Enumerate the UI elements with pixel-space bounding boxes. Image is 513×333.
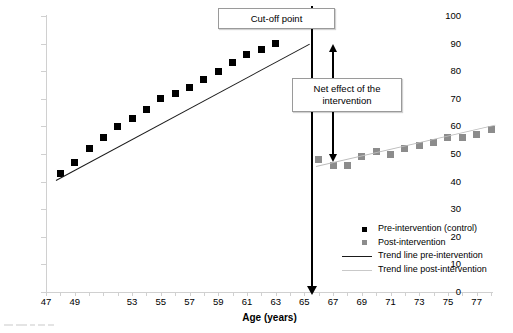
y-tick — [41, 126, 46, 127]
x-tick-label: 59 — [205, 297, 231, 307]
trend-line — [316, 125, 496, 167]
data-point — [114, 123, 121, 130]
x-tick — [233, 292, 234, 296]
y-tick-label: 0 — [421, 287, 461, 296]
data-point — [215, 68, 222, 75]
y-tick-label: 70 — [421, 94, 461, 103]
x-tick-label: 67 — [320, 297, 346, 307]
y-tick-label: 90 — [421, 39, 461, 48]
x-tick — [89, 292, 90, 296]
y-tick — [41, 154, 46, 155]
y-tick-label: 60 — [421, 121, 461, 130]
x-tick — [103, 292, 104, 296]
x-tick — [347, 292, 348, 296]
x-tick — [319, 292, 320, 296]
legend-square-icon — [340, 222, 374, 236]
data-point — [186, 84, 193, 91]
cutoff-vertical-line — [311, 6, 313, 287]
x-tick-label: 69 — [349, 297, 375, 307]
x-tick — [204, 292, 205, 296]
data-point — [459, 134, 466, 141]
legend-item: Trend line pre-intervention — [340, 249, 512, 263]
data-point — [272, 40, 279, 47]
x-tick — [261, 292, 262, 296]
data-point — [315, 156, 322, 163]
net-effect-arrow-head-up-icon — [329, 44, 337, 52]
y-tick — [41, 71, 46, 72]
y-tick-label: 40 — [421, 177, 461, 186]
cutoff-arrow-head-icon — [307, 286, 317, 295]
x-tick-label: 65 — [291, 297, 317, 307]
cutoff-point-callout: Cut-off point — [218, 8, 335, 29]
x-tick-label: 55 — [148, 297, 174, 307]
y-tick — [41, 209, 46, 210]
net-effect-label-line2: intervention — [314, 95, 381, 107]
data-point — [243, 51, 250, 58]
legend-symbol — [342, 256, 372, 257]
x-tick — [175, 292, 176, 296]
chart-canvas: Prevalence of drug use (%) Age (years) 4… — [0, 0, 513, 333]
x-tick-label: 61 — [234, 297, 260, 307]
data-point — [200, 76, 207, 83]
y-tick — [41, 44, 46, 45]
legend-line-icon — [340, 249, 374, 263]
net-effect-arrow-head-down-icon — [329, 154, 337, 162]
y-tick-label: 50 — [421, 149, 461, 158]
data-point — [473, 131, 480, 138]
data-point — [157, 95, 164, 102]
legend-line-icon — [340, 263, 374, 277]
legend-symbol — [362, 240, 367, 245]
x-tick-label: 75 — [435, 297, 461, 307]
y-tick — [41, 264, 46, 265]
x-tick — [290, 292, 291, 296]
data-point — [344, 162, 351, 169]
legend-item: Post-intervention — [340, 236, 512, 250]
x-tick-label: 73 — [406, 297, 432, 307]
legend-label: Trend line pre-intervention — [378, 249, 483, 263]
x-tick-label: 63 — [263, 297, 289, 307]
data-point — [129, 115, 136, 122]
x-tick-label: 53 — [119, 297, 145, 307]
chart-legend: Pre-intervention (control)Post-intervent… — [340, 222, 512, 276]
legend-item: Trend line post-intervention — [340, 263, 512, 277]
data-point — [172, 90, 179, 97]
data-point — [143, 106, 150, 113]
legend-item: Pre-intervention (control) — [340, 222, 512, 236]
cutoff-point-label: Cut-off point — [251, 13, 303, 25]
x-tick-label: 57 — [177, 297, 203, 307]
data-point — [430, 139, 437, 146]
net-effect-label-line1: Net effect of the — [314, 83, 381, 95]
x-tick — [60, 292, 61, 296]
x-tick — [376, 292, 377, 296]
data-point — [86, 145, 93, 152]
y-tick-label: 100 — [421, 11, 461, 20]
y-tick — [41, 16, 46, 17]
data-point — [387, 151, 394, 158]
legend-label: Pre-intervention (control) — [378, 222, 477, 236]
legend-symbol — [362, 227, 367, 232]
x-tick — [491, 292, 492, 296]
y-tick-label: 80 — [421, 66, 461, 75]
legend-label: Post-intervention — [378, 236, 446, 250]
y-tick — [41, 99, 46, 100]
x-tick — [405, 292, 406, 296]
y-tick-label: 30 — [421, 204, 461, 213]
data-point — [71, 159, 78, 166]
data-point — [229, 59, 236, 66]
x-tick — [462, 292, 463, 296]
x-tick-label: 49 — [62, 297, 88, 307]
data-point — [258, 46, 265, 53]
x-tick-label: 47 — [33, 297, 59, 307]
legend-square-icon — [340, 236, 374, 250]
y-tick — [41, 182, 46, 183]
x-axis-title: Age (years) — [46, 312, 493, 323]
x-tick-label: 77 — [464, 297, 490, 307]
x-tick — [118, 292, 119, 296]
x-tick-label: 71 — [378, 297, 404, 307]
x-tick — [146, 292, 147, 296]
legend-label: Trend line post-intervention — [378, 263, 487, 277]
data-point — [100, 134, 107, 141]
page-artifact — [4, 322, 60, 327]
y-tick — [41, 237, 46, 238]
trend-line — [56, 44, 311, 181]
